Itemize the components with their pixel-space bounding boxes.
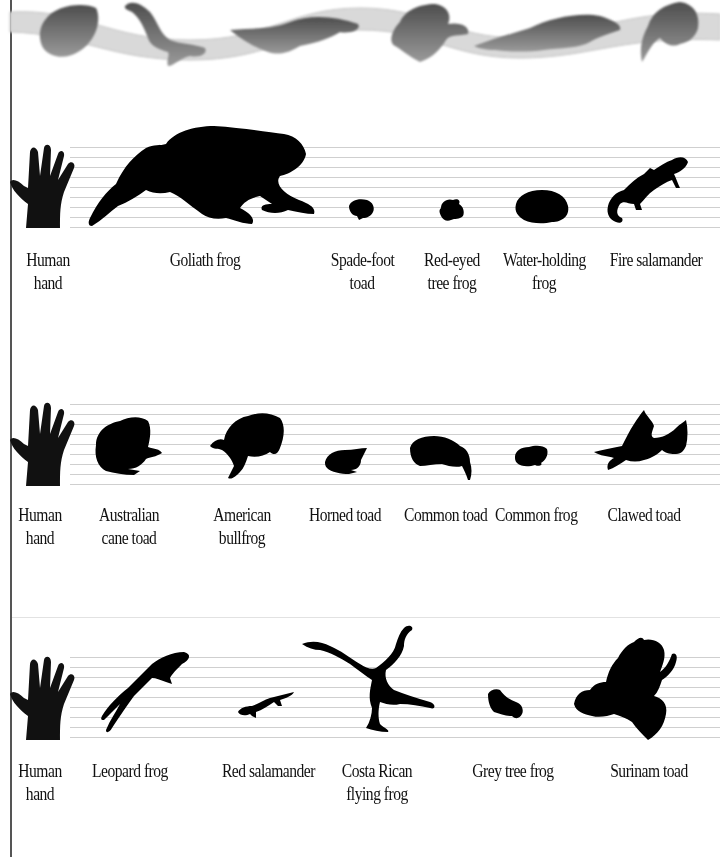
costa-rican-flying-frog-icon bbox=[300, 624, 440, 732]
label-human-hand: Humanhand bbox=[15, 759, 64, 805]
label-clawed-toad: Clawed toad bbox=[603, 503, 685, 526]
label-water-holding-frog: Water-holdingfrog bbox=[503, 248, 585, 294]
red-salamander-icon bbox=[236, 690, 296, 720]
frog-icon bbox=[641, 2, 698, 62]
label-red-salamander: Red salamander bbox=[222, 759, 312, 782]
label-australian-cane-toad: Australiancane toad bbox=[95, 503, 162, 549]
label-horned-toad: Horned toad bbox=[308, 503, 382, 526]
label-human-hand: Humanhand bbox=[15, 503, 64, 549]
label-red-eyed-tree-frog: Red-eyedtree frog bbox=[421, 248, 483, 294]
australian-cane-toad-icon bbox=[94, 415, 164, 479]
label-common-toad: Common toad bbox=[404, 503, 486, 526]
size-comparison-row-2: Humanhand Australiancane toad Americanbu… bbox=[0, 390, 720, 570]
label-costa-rican-flying-frog: Costa Ricanflying frog bbox=[340, 759, 414, 805]
leopard-frog-icon bbox=[100, 650, 192, 734]
grey-tree-frog-icon bbox=[486, 688, 524, 720]
size-comparison-row-1: Humanhand Goliath frog Spade-foottoad Re… bbox=[0, 110, 720, 290]
american-bullfrog-icon bbox=[208, 410, 286, 482]
surinam-toad-icon bbox=[572, 634, 680, 742]
label-surinam-toad: Surinam toad bbox=[604, 759, 694, 782]
horned-toad-icon bbox=[323, 448, 369, 474]
amphibian-banner bbox=[0, 0, 720, 80]
label-common-frog: Common frog bbox=[495, 503, 577, 526]
spade-foot-toad-icon bbox=[347, 198, 375, 220]
toad-icon bbox=[40, 5, 98, 57]
label-leopard-frog: Leopard frog bbox=[89, 759, 171, 782]
red-eyed-tree-frog-icon bbox=[437, 198, 465, 222]
common-toad-icon bbox=[408, 434, 474, 482]
label-american-bullfrog: Americanbullfrog bbox=[209, 503, 275, 549]
label-spade-foot-toad: Spade-foottoad bbox=[331, 248, 393, 294]
human-hand-icon bbox=[8, 402, 80, 486]
common-frog-icon bbox=[513, 445, 549, 469]
label-goliath-frog: Goliath frog bbox=[160, 248, 250, 271]
size-comparison-row-3: Humanhand Leopard frog Red salamander Co… bbox=[0, 620, 720, 800]
human-hand-icon bbox=[8, 656, 80, 740]
goliath-frog-icon bbox=[84, 122, 319, 230]
human-hand-icon bbox=[8, 144, 80, 228]
ribbon bbox=[10, 8, 720, 60]
label-grey-tree-frog: Grey tree frog bbox=[468, 759, 558, 782]
fire-salamander-icon bbox=[606, 156, 690, 224]
label-human-hand: Humanhand bbox=[23, 248, 72, 294]
water-holding-frog-icon bbox=[514, 190, 570, 224]
clawed-toad-icon bbox=[592, 410, 690, 478]
label-fire-salamander: Fire salamander bbox=[607, 248, 705, 271]
row-separator bbox=[12, 617, 720, 618]
